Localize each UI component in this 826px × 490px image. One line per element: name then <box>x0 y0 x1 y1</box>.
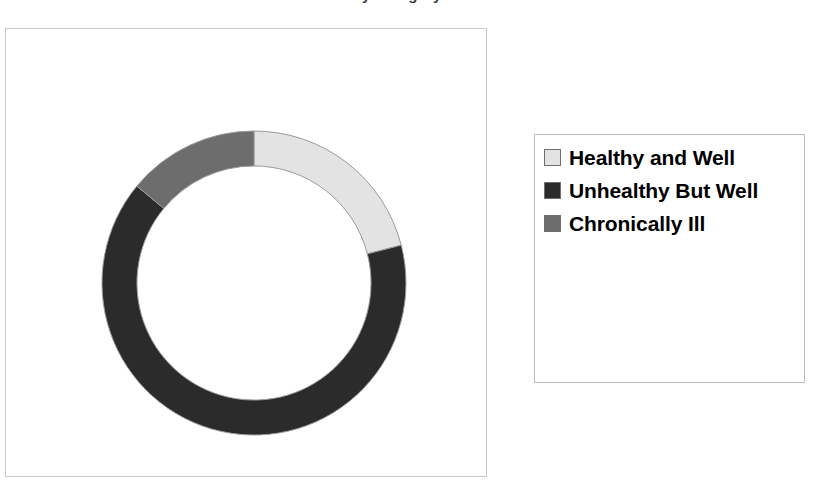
legend-item-label: Healthy and Well <box>569 144 735 171</box>
donut-chart-svg <box>99 128 409 438</box>
chart-title: Distribution of Patients by Category <box>0 0 620 3</box>
legend-item-unhealthy-but-well[interactable]: Unhealthy But Well <box>544 177 800 204</box>
legend: Healthy and Well Unhealthy But Well Chro… <box>534 134 805 383</box>
legend-swatch-icon <box>544 182 561 199</box>
legend-item-chronically-ill[interactable]: Chronically Ill <box>544 210 800 237</box>
donut-segment-group <box>102 131 406 435</box>
donut-chart <box>99 128 409 438</box>
legend-item-label: Unhealthy But Well <box>569 177 758 204</box>
donut-segment[interactable] <box>137 131 254 208</box>
legend-item-healthy-and-well[interactable]: Healthy and Well <box>544 144 800 171</box>
legend-swatch-icon <box>544 149 561 166</box>
legend-item-label: Chronically Ill <box>569 210 705 237</box>
donut-segment[interactable] <box>254 131 401 254</box>
legend-swatch-icon <box>544 215 561 232</box>
plot-area-frame <box>5 28 487 477</box>
legend-item-list: Healthy and Well Unhealthy But Well Chro… <box>544 144 800 243</box>
